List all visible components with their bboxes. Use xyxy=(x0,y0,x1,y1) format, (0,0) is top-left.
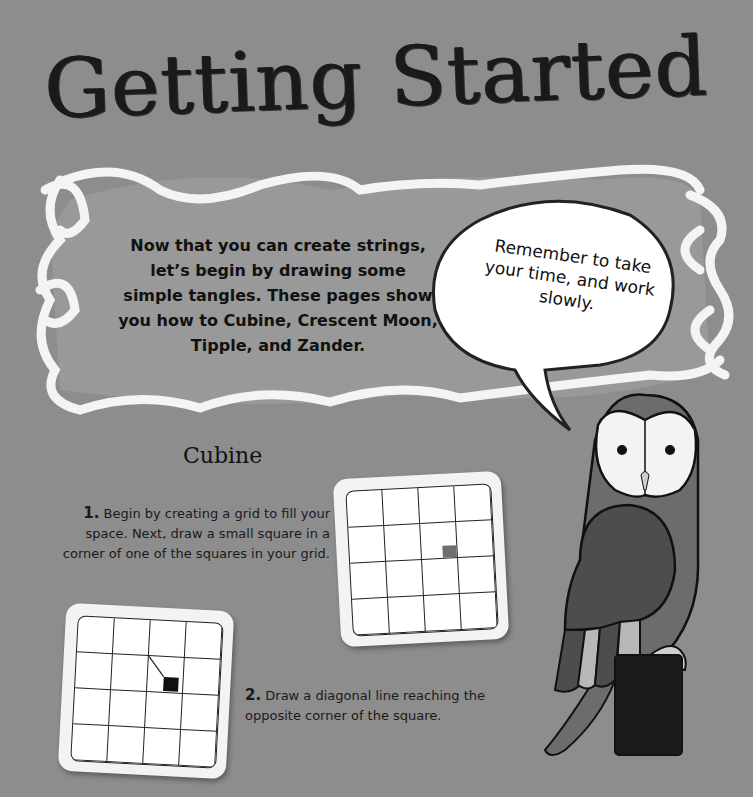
post xyxy=(615,655,682,755)
step-1: 1. Begin by creating a grid to fill your… xyxy=(60,503,330,564)
step-1-number: 1. xyxy=(83,504,99,522)
small-square-marker xyxy=(442,545,457,558)
grid-card-step-2 xyxy=(58,603,235,780)
intro-paragraph: Now that you can create strings, let’s b… xyxy=(118,233,438,358)
owl-illustration xyxy=(540,380,753,797)
grid-4x4 xyxy=(345,483,498,636)
owl-eye-left xyxy=(617,445,627,455)
section-title-cubine: Cubine xyxy=(183,443,262,468)
grid-card-step-1 xyxy=(333,471,510,648)
step-1-text: Begin by creating a grid to fill your sp… xyxy=(63,506,330,561)
step-2: 2. Draw a diagonal line reaching the opp… xyxy=(245,685,505,726)
step-2-text: Draw a diagonal line reaching the opposi… xyxy=(245,688,485,723)
owl-eye-right xyxy=(665,445,675,455)
grid-4x4 xyxy=(70,615,223,768)
step-2-number: 2. xyxy=(245,686,261,704)
page-title: Getting Started xyxy=(0,17,753,138)
black-square-marker xyxy=(163,677,179,692)
